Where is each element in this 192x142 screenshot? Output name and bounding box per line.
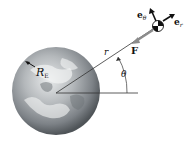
unit-vector-e-theta-arrow (149, 8, 156, 21)
theta-arc-arrowhead (116, 57, 121, 61)
angle-theta-label: θ (121, 70, 126, 79)
diagram-canvas (0, 0, 192, 142)
satellite-marker (153, 21, 164, 32)
force-arrow (131, 30, 153, 44)
force-f-label: F (131, 46, 138, 56)
earth-radius-label: RE (36, 67, 49, 79)
unit-vector-e-theta-label: eθ (137, 11, 146, 21)
distance-r-label: r (104, 48, 108, 57)
earth-globe (12, 47, 100, 135)
unit-vector-e-r-label: er (174, 18, 183, 28)
